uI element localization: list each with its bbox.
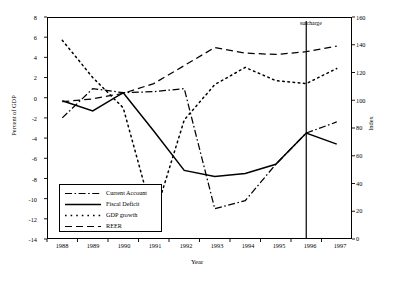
chart-figure: 8 6 4 2 0 -2 -4 -6 -8 -10 -12 -14 160 14…	[0, 0, 394, 282]
series-line-fiscal-deficit	[62, 93, 337, 177]
series-line-reer	[62, 46, 337, 102]
legend-swatch-dashed	[60, 221, 106, 232]
legend-item-fiscal-deficit: Fiscal Deficit	[60, 199, 161, 210]
legend-swatch-solid	[60, 199, 106, 210]
legend-swatch-dash-dot	[60, 188, 106, 199]
legend: Current Account Fiscal Deficit GDP growt…	[59, 184, 162, 232]
legend-item-gdp-growth: GDP growth	[60, 210, 161, 221]
legend-label: REER	[106, 223, 122, 229]
legend-label: Fiscal Deficit	[106, 201, 140, 207]
legend-label: GDP growth	[106, 212, 137, 218]
legend-swatch-dotted	[60, 210, 106, 221]
legend-label: Current Account	[106, 190, 147, 196]
series-canvas	[0, 0, 394, 282]
legend-item-current-account: Current Account	[60, 188, 161, 199]
legend-item-reer: REER	[60, 221, 161, 232]
